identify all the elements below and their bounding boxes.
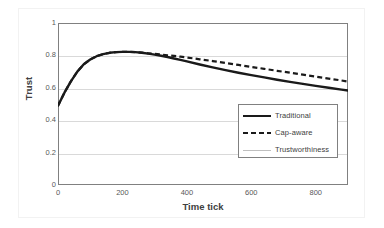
y-axis-tick-labels: 1 0.8 0.6 0.4 0.2 0 — [26, 23, 56, 185]
legend-item-trustworthiness[interactable]: Trustworthiness — [242, 141, 334, 158]
y-tick-label: 0.6 — [28, 84, 56, 92]
x-axis-tick-labels: 0 200 400 600 800 — [58, 188, 348, 200]
legend-label: Traditional — [275, 111, 311, 120]
chart-container: Trust 1 0.8 0.6 0.4 0.2 0 0 200 400 600 … — [0, 0, 384, 228]
legend-item-cap-aware[interactable]: Cap-aware — [242, 124, 334, 141]
series-line-traditional — [58, 52, 348, 106]
x-tick-label: 400 — [169, 188, 205, 197]
chart-legend: Traditional Cap-aware Trustworthiness — [238, 104, 338, 158]
legend-label: Trustworthiness — [275, 145, 329, 154]
legend-swatch-thin-line-icon — [242, 145, 272, 155]
x-tick-label: 0 — [40, 188, 76, 197]
x-tick-label: 800 — [298, 188, 334, 197]
x-axis-title: Time tick — [58, 201, 348, 212]
x-tick-label: 600 — [233, 188, 269, 197]
series-line-cap-aware — [58, 52, 348, 106]
y-tick-label: 0.8 — [28, 51, 56, 59]
x-tick-label: 200 — [104, 188, 140, 197]
legend-swatch-solid-line-icon — [242, 111, 272, 121]
legend-item-traditional[interactable]: Traditional — [242, 107, 334, 124]
y-tick-label: 1 — [28, 19, 56, 27]
legend-swatch-dashed-line-icon — [242, 128, 272, 138]
y-tick-label: 0.4 — [28, 116, 56, 124]
y-tick-label: 0.2 — [28, 149, 56, 157]
legend-label: Cap-aware — [275, 128, 313, 137]
